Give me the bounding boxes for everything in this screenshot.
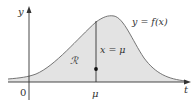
region-label: ℛ xyxy=(70,55,79,66)
line-label: x = μ xyxy=(100,44,126,55)
origin-label: 0 xyxy=(20,87,26,98)
y-axis-arrow-icon xyxy=(27,6,32,13)
curve-label: y = f(x) xyxy=(131,16,168,27)
probability-density-diagram: y 0 μ t y = f(x) x = μ ℛ xyxy=(0,0,192,104)
t-axis-label: t xyxy=(184,84,189,95)
centroid-dot xyxy=(94,67,98,71)
y-axis-label: y xyxy=(17,6,24,17)
mu-tick-label: μ xyxy=(92,88,99,99)
